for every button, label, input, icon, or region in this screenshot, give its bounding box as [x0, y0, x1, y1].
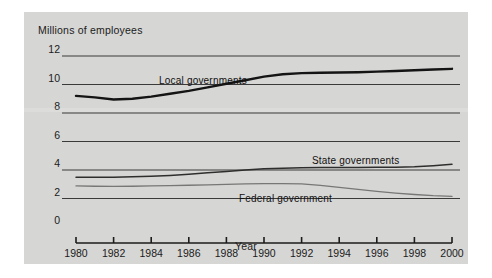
y-axis-tick-label: 2 — [38, 186, 60, 198]
x-axis-tick-label: 1982 — [94, 247, 134, 259]
series-label: Local governments — [159, 75, 247, 86]
x-axis-tick-label: 1986 — [169, 247, 209, 259]
series-label: State governments — [312, 155, 399, 166]
x-axis-tick-label: 1980 — [56, 247, 96, 259]
series-line — [76, 164, 452, 177]
x-axis-tick-label: 1984 — [131, 247, 171, 259]
y-axis-tick-label: 0 — [38, 214, 60, 226]
x-axis-tick-label: 1998 — [394, 247, 434, 259]
x-axis-tick-label: 1990 — [244, 247, 284, 259]
y-axis-tick-label: 4 — [38, 157, 60, 169]
y-axis-tick-label: 8 — [38, 100, 60, 112]
y-axis-tick-label: 6 — [38, 129, 60, 141]
x-axis-tick-label: 2000 — [432, 247, 472, 259]
series-label: Federal government — [239, 193, 332, 204]
y-axis-tick-label: 10 — [38, 72, 60, 84]
x-axis-tick-label: 1988 — [206, 247, 246, 259]
line-chart-plot — [24, 12, 468, 264]
chart-figure: Millions of employees Year 0246810121980… — [24, 12, 468, 264]
y-axis-tick-label: 12 — [38, 43, 60, 55]
x-axis-tick-label: 1994 — [319, 247, 359, 259]
x-axis-tick-label: 1992 — [282, 247, 322, 259]
x-axis-tick-label: 1996 — [357, 247, 397, 259]
